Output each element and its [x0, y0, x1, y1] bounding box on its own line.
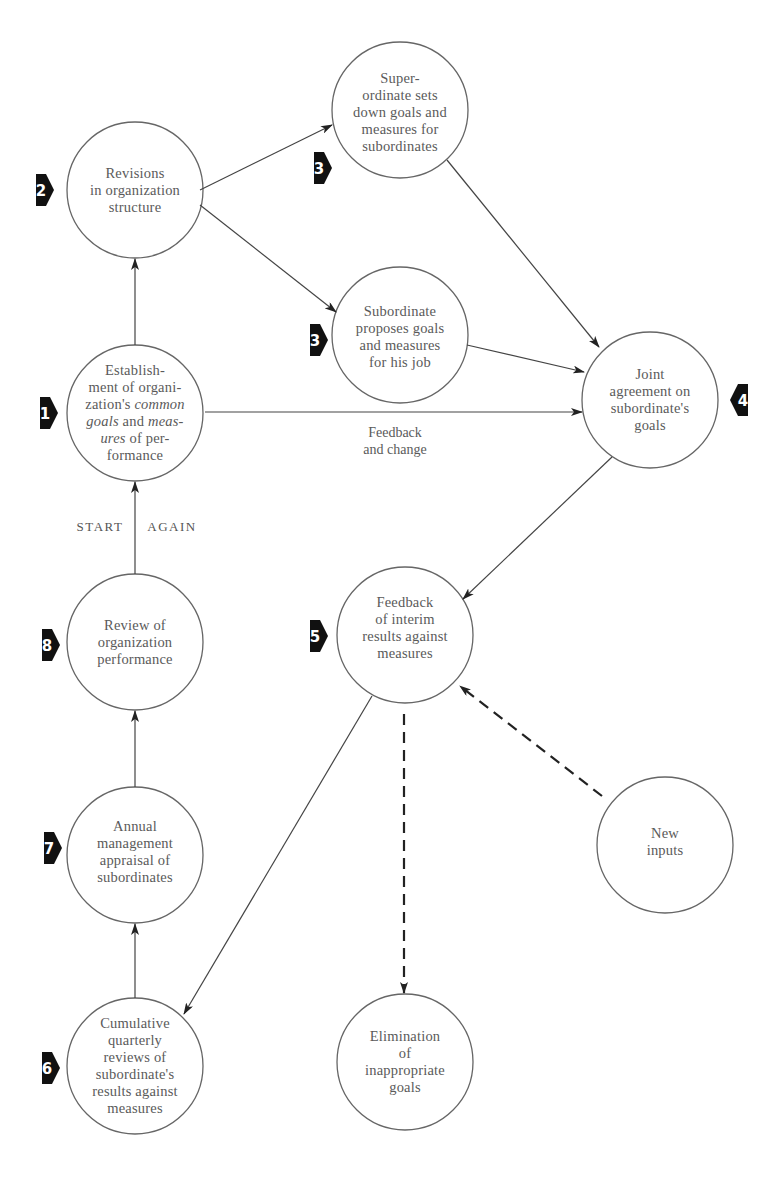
- svg-text:3: 3: [310, 332, 320, 350]
- node-label-feedback-interim: Feedback of interim results against meas…: [362, 594, 448, 662]
- svg-text:3: 3: [314, 160, 324, 178]
- svg-text:7: 7: [44, 840, 54, 858]
- edge-feedback-to-cumulative: [184, 696, 372, 1014]
- svg-text:6: 6: [42, 1060, 52, 1078]
- step-badge-7: 7: [44, 832, 62, 864]
- svg-text:4: 4: [738, 392, 748, 410]
- step-badge-6: 6: [42, 1052, 60, 1084]
- edge-superordinate-to-joint: [447, 160, 599, 347]
- node-label-new-inputs: New inputs: [647, 825, 684, 859]
- node-label-emphasis: goals: [86, 413, 118, 429]
- node-label-fragment: and: [119, 413, 148, 429]
- step-badge-5: 5: [310, 620, 328, 652]
- node-label-elimination: Elimination of inappropriate goals: [365, 1028, 445, 1096]
- step-badge-1: 1: [40, 397, 58, 429]
- edge-subordinate-to-joint: [467, 345, 584, 372]
- edge-revisions-to-superordinate: [200, 125, 332, 190]
- node-label-cumulative: Cumulative quarterly reviews of subordin…: [92, 1015, 178, 1117]
- svg-text:2: 2: [36, 182, 46, 200]
- node-label-fragment: of per-: [126, 430, 170, 446]
- node-label-emphasis: common: [134, 396, 184, 412]
- node-label-establishment: Establish- ment of organi- zation's comm…: [85, 362, 184, 464]
- step-badge-3-subordinate: 3: [310, 324, 328, 356]
- edge-revisions-to-subordinate: [200, 205, 336, 312]
- node-label-review: Review of organization performance: [97, 617, 172, 668]
- step-badge-2: 2: [36, 174, 54, 206]
- node-label-fragment: zation's: [85, 396, 134, 412]
- edge-label-feedback-change: Feedback and change: [363, 424, 426, 458]
- node-label-line: Establish-: [85, 362, 184, 379]
- node-label-line: ures of per-: [85, 430, 184, 447]
- again-label: AGAIN: [147, 519, 196, 535]
- node-label-revisions: Revisions in organization structure: [90, 165, 180, 216]
- node-label-line: ment of organi-: [85, 379, 184, 396]
- node-label-joint-agreement: Joint agreement on subordinate's goals: [610, 366, 691, 434]
- svg-text:5: 5: [310, 628, 320, 646]
- node-label-superordinate: Super- ordinate sets down goals and meas…: [353, 70, 447, 155]
- step-badge-8: 8: [42, 629, 60, 661]
- node-label-line: zation's common: [85, 396, 184, 413]
- edge-joint-to-feedback: [463, 457, 612, 599]
- edge-new-inputs-to-feedback: [460, 686, 602, 796]
- svg-text:8: 8: [42, 637, 52, 655]
- node-label-line: formance: [85, 447, 184, 464]
- node-label-annual: Annual management appraisal of subordina…: [97, 818, 173, 886]
- node-label-line: goals and meas-: [85, 413, 184, 430]
- start-label: START: [77, 519, 124, 535]
- step-badge-3-superordinate: 3: [314, 152, 332, 184]
- step-badge-4: 4: [730, 384, 748, 416]
- svg-text:1: 1: [40, 405, 50, 423]
- node-label-subordinate-proposes: Subordinate proposes goals and measures …: [356, 303, 445, 371]
- node-label-emphasis: meas-: [148, 413, 184, 429]
- node-label-emphasis: ures: [100, 430, 125, 446]
